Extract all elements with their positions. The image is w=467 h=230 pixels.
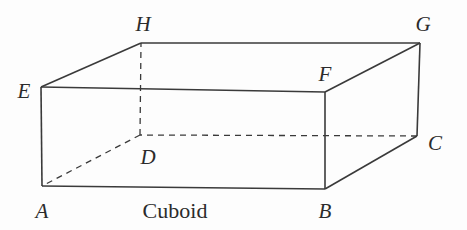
vertex-label-B: B [319,201,332,222]
edge-DA [42,135,140,186]
edge-CG [417,43,420,136]
edge-EF [41,87,325,92]
edge-AE [41,87,42,186]
figure-caption: Cuboid [143,200,208,222]
edge-CD [140,135,417,136]
vertex-label-H: H [135,14,150,35]
cuboid-figure: ABCDEFGH Cuboid [0,0,467,230]
edge-DH [140,43,141,135]
edge-HE [41,43,141,87]
edge-layer [41,43,420,189]
edge-FG [325,43,420,92]
cuboid-drawing [0,0,467,230]
vertex-label-F: F [319,64,332,85]
vertex-label-G: G [415,14,430,35]
edge-AB [42,186,325,189]
edge-BC [325,136,417,189]
vertex-label-D: D [140,147,155,168]
vertex-label-E: E [18,81,31,102]
vertex-label-A: A [36,201,49,222]
vertex-label-C: C [428,133,442,154]
